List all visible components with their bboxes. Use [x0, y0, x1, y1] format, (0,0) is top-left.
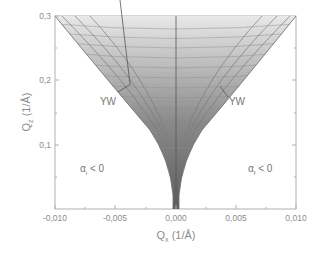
alpha-f-label: αf < 0 — [248, 163, 273, 176]
yw-left-label: YW — [100, 96, 117, 107]
x-tick-label: 0,005 — [225, 213, 247, 223]
x-axis-label: Qx (1/Å) — [157, 229, 196, 243]
x-ticks — [55, 205, 296, 209]
x-tick-label: -0,005 — [103, 213, 127, 223]
chart: -0,010 -0,005 0,000 0,005 0,010 0,1 0,2 … — [0, 0, 324, 255]
y-tick-label: 0,3 — [39, 11, 51, 21]
x-tick-label: 0,010 — [285, 213, 307, 223]
y-tick-label: 0,2 — [39, 75, 51, 85]
alpha-i-label: αi < 0 — [80, 163, 105, 176]
intensity-region — [55, 16, 296, 209]
y-axis-label: Qz (1/Å) — [20, 93, 34, 132]
y-tick-label: 0,1 — [39, 140, 51, 150]
yw-right-label: YW — [229, 96, 246, 107]
x-tick-label: -0,010 — [43, 213, 67, 223]
x-tick-label: 0,000 — [165, 213, 187, 223]
